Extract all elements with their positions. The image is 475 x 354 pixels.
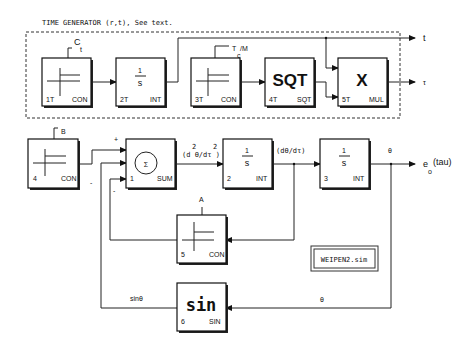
svg-text:INT: INT xyxy=(150,96,162,103)
block-1-sum[interactable]: Σ 1 SUM xyxy=(126,139,177,190)
svg-text:CON: CON xyxy=(61,175,77,182)
plus-sign: + xyxy=(114,136,118,143)
block-diagram: TIME GENERATOR (r,t), See text. C t t T … xyxy=(0,0,475,354)
block-3-int[interactable]: 1 s 3 INT xyxy=(320,139,371,190)
svg-text:SIN: SIN xyxy=(209,318,221,325)
block-6-sin[interactable]: sin 6 SIN xyxy=(177,283,228,333)
svg-text:1: 1 xyxy=(245,147,249,154)
d1-label: (dθ/dτ) xyxy=(276,147,306,155)
a-label: A xyxy=(199,196,204,203)
svg-text:2: 2 xyxy=(213,143,217,151)
b-label: B xyxy=(61,128,66,135)
svg-text:SQT: SQT xyxy=(297,96,312,104)
file-label-box: WEIPEN2.sim xyxy=(311,246,378,271)
d2-label: (d θ/dτ ) xyxy=(182,151,220,159)
tcm-label: T xyxy=(232,45,237,52)
wire-4T-5T xyxy=(314,82,338,97)
minus-sign-2: - xyxy=(113,187,116,194)
tau-output-label: τ xyxy=(423,79,426,86)
svg-text:3: 3 xyxy=(324,175,328,182)
svg-text:SQT: SQT xyxy=(273,71,309,90)
block-3T-con[interactable]: 3T CON xyxy=(191,58,242,108)
diagram-title: TIME GENERATOR (r,t), See text. xyxy=(42,19,173,27)
svg-text:/M: /M xyxy=(240,45,248,52)
svg-text:1: 1 xyxy=(342,147,346,154)
svg-text:1T: 1T xyxy=(46,96,55,103)
t-output-label: t xyxy=(423,33,426,43)
file-label: WEIPEN2.sim xyxy=(321,256,367,264)
svg-text:(tau): (tau) xyxy=(433,157,452,167)
svg-text:SUM: SUM xyxy=(157,175,173,182)
svg-text:6: 6 xyxy=(181,318,185,325)
svg-text:5T: 5T xyxy=(342,96,351,103)
svg-text:s: s xyxy=(245,158,250,168)
svg-text:X: X xyxy=(356,71,368,90)
svg-text:4: 4 xyxy=(33,175,37,182)
svg-text:3T: 3T xyxy=(195,96,204,103)
svg-text:2: 2 xyxy=(227,175,231,182)
svg-text:INT: INT xyxy=(353,175,365,182)
ct-sub-label: t xyxy=(80,46,82,53)
block-2-int[interactable]: 1 s 2 INT xyxy=(223,139,274,190)
sigma-icon: Σ xyxy=(144,161,149,168)
minus-sign-1: - xyxy=(90,179,93,186)
svg-text:sin: sin xyxy=(186,295,217,315)
theta-label-2: θ xyxy=(320,296,324,303)
svg-text:s: s xyxy=(138,78,143,88)
block-2T-int[interactable]: 1 s 2T INT xyxy=(116,58,167,108)
svg-text:CON: CON xyxy=(209,251,225,258)
svg-text:2T: 2T xyxy=(120,96,129,103)
svg-text:5: 5 xyxy=(181,251,185,258)
block-5T-mul[interactable]: X 5T MUL xyxy=(338,58,389,108)
wire-4-sum xyxy=(78,150,126,164)
svg-text:1: 1 xyxy=(130,175,134,182)
theta-label-1: θ xyxy=(388,147,392,154)
svg-text:INT: INT xyxy=(256,175,268,182)
svg-text:2: 2 xyxy=(192,143,196,151)
svg-text:s: s xyxy=(342,158,347,168)
svg-text:o: o xyxy=(428,168,432,175)
svg-text:CON: CON xyxy=(221,96,237,103)
block-1T-con[interactable]: 1T CON xyxy=(42,58,93,108)
block-4-con[interactable]: 4 CON xyxy=(28,139,80,190)
svg-text:4T: 4T xyxy=(269,96,278,103)
block-5-con[interactable]: 5 CON xyxy=(177,215,228,265)
wire-t-5T xyxy=(326,38,338,68)
sin-theta-label: sinθ xyxy=(130,295,143,302)
svg-text:CON: CON xyxy=(72,96,88,103)
svg-text:MUL: MUL xyxy=(369,96,384,103)
svg-text:1: 1 xyxy=(138,67,142,74)
block-4T-sqt[interactable]: SQT 4T SQT xyxy=(265,58,316,108)
